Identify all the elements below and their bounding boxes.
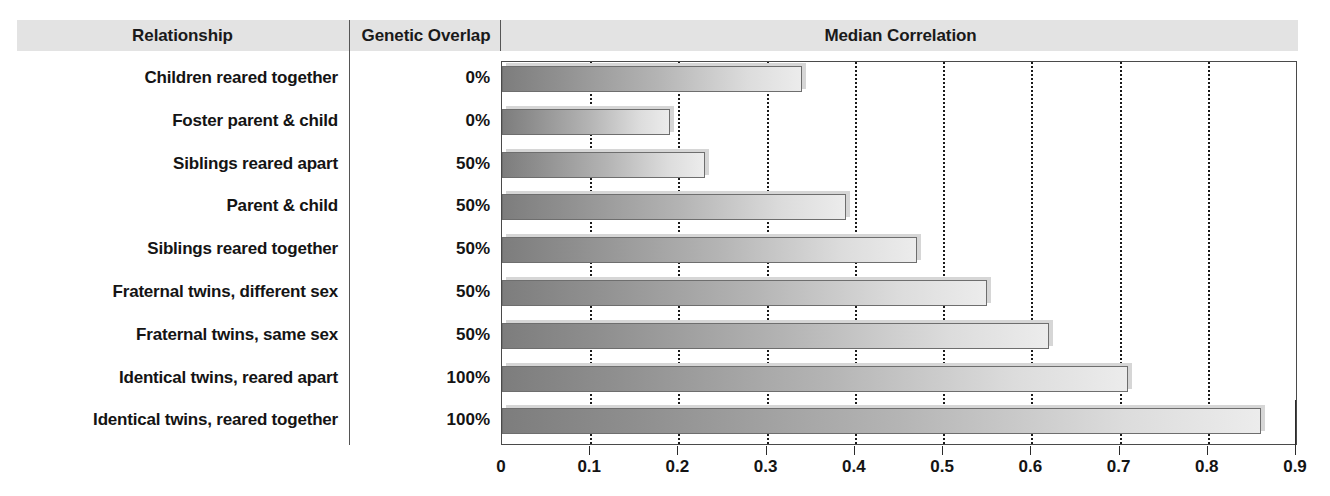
tick-label-0.8: 0.8 <box>1177 456 1237 478</box>
tick-mark-0.8 <box>1207 446 1208 455</box>
tick-label-0.6: 0.6 <box>1000 456 1060 478</box>
tick-mark-0.1 <box>589 446 590 455</box>
row-value-genetic-overlap: 50% <box>360 323 490 347</box>
bar-4[interactable] <box>502 194 846 220</box>
bar-5[interactable] <box>502 237 917 263</box>
heritability-correlation-chart: Relationship Genetic Overlap Median Corr… <box>0 0 1330 496</box>
bar-2[interactable] <box>502 109 670 135</box>
row-label-relationship: Identical twins, reared together <box>8 408 338 432</box>
row-value-genetic-overlap: 100% <box>360 366 490 390</box>
column-divider-overlap <box>500 20 501 51</box>
tick-mark-0.9 <box>1295 400 1296 455</box>
tick-label-0.3: 0.3 <box>736 456 796 478</box>
tick-mark-0.3 <box>766 446 767 455</box>
row-label-relationship: Parent & child <box>8 194 338 218</box>
tick-label-0.4: 0.4 <box>824 456 884 478</box>
tick-label-0.7: 0.7 <box>1089 456 1149 478</box>
row-label-relationship: Siblings reared apart <box>8 152 338 176</box>
row-label-relationship: Fraternal twins, same sex <box>8 323 338 347</box>
bar-3[interactable] <box>502 152 705 178</box>
tick-mark-0.4 <box>854 446 855 455</box>
bar-6[interactable] <box>502 280 987 306</box>
tick-mark-0.5 <box>942 446 943 455</box>
column-divider-relationship <box>349 20 350 445</box>
tick-label-0.2: 0.2 <box>647 456 707 478</box>
column-header-genetic-overlap: Genetic Overlap <box>353 20 499 51</box>
row-label-relationship: Fraternal twins, different sex <box>8 280 338 304</box>
row-label-relationship: Children reared together <box>8 66 338 90</box>
bar-1[interactable] <box>502 66 802 92</box>
gridline-0.8 <box>1208 62 1210 444</box>
row-label-relationship: Identical twins, reared apart <box>8 366 338 390</box>
row-value-genetic-overlap: 50% <box>360 280 490 304</box>
row-value-genetic-overlap: 0% <box>360 109 490 133</box>
tick-mark-0.6 <box>1030 446 1031 455</box>
tick-label-0.9: 0.9 <box>1265 456 1325 478</box>
column-header-median-correlation: Median Correlation <box>503 20 1298 51</box>
tick-label-0.5: 0.5 <box>912 456 972 478</box>
row-value-genetic-overlap: 50% <box>360 237 490 261</box>
row-label-relationship: Foster parent & child <box>8 109 338 133</box>
bar-8[interactable] <box>502 366 1128 392</box>
plot-area <box>501 61 1297 445</box>
row-value-genetic-overlap: 0% <box>360 66 490 90</box>
tick-label-0: 0 <box>471 456 531 478</box>
row-label-relationship: Siblings reared together <box>8 237 338 261</box>
bar-7[interactable] <box>502 323 1049 349</box>
bar-9[interactable] <box>502 408 1261 434</box>
row-value-genetic-overlap: 50% <box>360 152 490 176</box>
tick-mark-0.2 <box>677 446 678 455</box>
tick-mark-0.7 <box>1119 446 1120 455</box>
column-header-relationship: Relationship <box>17 20 348 51</box>
row-value-genetic-overlap: 50% <box>360 194 490 218</box>
tick-label-0.1: 0.1 <box>559 456 619 478</box>
row-value-genetic-overlap: 100% <box>360 408 490 432</box>
